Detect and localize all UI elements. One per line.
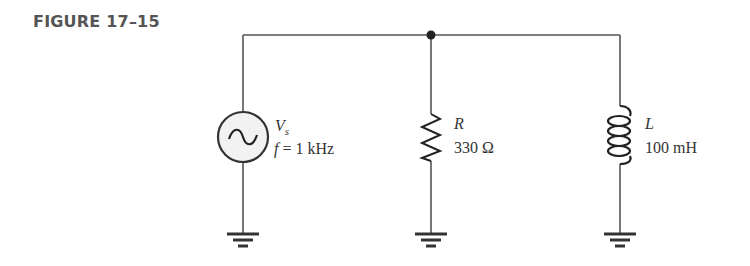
inductor-ground-icon xyxy=(604,234,636,246)
circuit-diagram xyxy=(0,0,750,266)
resistor-icon xyxy=(422,114,440,161)
resistor-ground-icon xyxy=(415,234,447,246)
junction-dot xyxy=(427,31,436,40)
resistor-symbol: R xyxy=(454,113,464,135)
ac-source-icon xyxy=(218,112,268,162)
inductor-icon xyxy=(608,106,631,164)
source-symbol: V xyxy=(275,117,285,134)
source-ground-icon xyxy=(227,234,259,246)
inductor-symbol: L xyxy=(645,113,654,135)
source-label: Vs xyxy=(275,115,289,138)
inductor-value: 100 mH xyxy=(645,137,697,159)
source-frequency: f = 1 kHz xyxy=(274,138,334,160)
frequency-value: = 1 kHz xyxy=(278,140,334,157)
resistor-value: 330 Ω xyxy=(454,137,494,159)
source-subscript: s xyxy=(285,125,289,137)
